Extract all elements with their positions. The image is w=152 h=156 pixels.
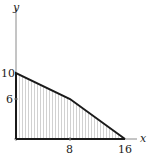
region-diagram: y x 10 6 8 16 xyxy=(0,0,152,156)
shaded-region xyxy=(16,73,125,139)
x-tick-16: 16 xyxy=(118,143,132,156)
y-axis-label: y xyxy=(12,1,20,14)
y-tick-10: 10 xyxy=(1,67,15,80)
x-axis-label: x xyxy=(140,132,147,145)
y-tick-6: 6 xyxy=(6,93,13,106)
x-tick-8: 8 xyxy=(66,143,73,156)
